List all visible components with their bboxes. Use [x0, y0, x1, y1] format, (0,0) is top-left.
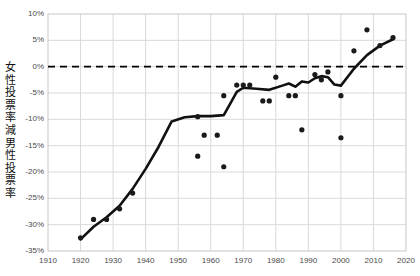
y-tick-label: 0%	[14, 62, 44, 71]
x-tick-label: 2000	[325, 256, 357, 265]
x-tick-label: 1960	[195, 256, 227, 265]
x-tick-label: 1980	[260, 256, 292, 265]
x-tick-label: 1940	[130, 256, 162, 265]
x-tick-label: 2020	[390, 256, 420, 265]
y-tick-label: -25%	[14, 193, 44, 202]
x-tick-label: 2010	[357, 256, 389, 265]
y-tick-label: -35%	[14, 246, 44, 255]
x-tick-label: 1910	[32, 256, 64, 265]
x-tick-label: 1930	[97, 256, 129, 265]
y-tick-label: -30%	[14, 220, 44, 229]
y-tick-label: -15%	[14, 141, 44, 150]
y-tick-label: 10%	[14, 9, 44, 18]
x-tick-label: 1920	[65, 256, 97, 265]
y-tick-label: -5%	[14, 88, 44, 97]
y-tick-label: -20%	[14, 167, 44, 176]
y-tick-label: 5%	[14, 35, 44, 44]
x-tick-label: 1970	[227, 256, 259, 265]
x-tick-label: 1990	[292, 256, 324, 265]
x-tick-label: 1950	[162, 256, 194, 265]
y-tick-label: -10%	[14, 114, 44, 123]
